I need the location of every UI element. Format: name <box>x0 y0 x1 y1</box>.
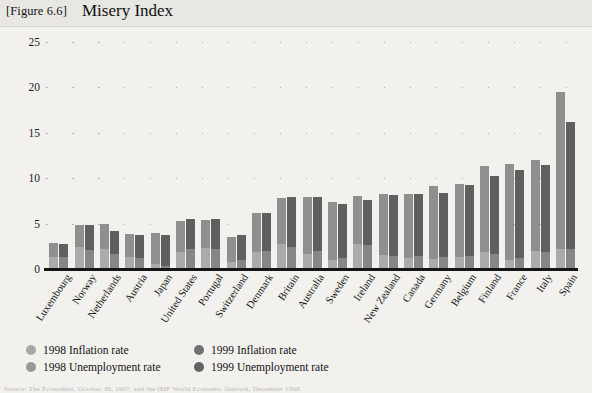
bar-group <box>328 42 347 269</box>
legend-label: 1999 Unemployment rate <box>211 361 329 373</box>
x-axis-tick-label-text: Britain <box>275 272 300 302</box>
bar-group <box>531 42 550 269</box>
x-axis-tick-label-text: Italy <box>534 272 554 294</box>
bar-segment-unemployment <box>439 193 448 257</box>
bar-group <box>49 42 68 269</box>
legend-swatch-icon <box>26 345 36 355</box>
x-axis-tick-label-text: Spain <box>557 272 579 298</box>
bar-group <box>429 42 448 269</box>
bar-1998 <box>49 243 58 269</box>
legend-label: 1998 Inflation rate <box>43 344 129 356</box>
bar-segment-unemployment <box>277 198 286 244</box>
x-axis-tick-label-text: Canada <box>401 272 428 304</box>
bar-segment-unemployment <box>313 197 322 251</box>
source-note: Source: The Economist, October 30, 1997,… <box>4 385 302 393</box>
bar-segment-unemployment <box>566 122 575 249</box>
bar-segment-unemployment <box>389 195 398 256</box>
legend-label: 1998 Unemployment rate <box>43 361 161 373</box>
chart-plot-area: 0510152025 <box>46 42 578 269</box>
bar-group <box>303 42 322 269</box>
page-title: Misery Index <box>82 1 173 21</box>
bar-segment-unemployment <box>303 197 312 254</box>
bar-group <box>379 42 398 269</box>
y-axis-tick-label: 5 <box>34 218 40 230</box>
legend-swatch-icon <box>194 362 204 372</box>
x-axis-tick-label-text: Sweden <box>324 272 352 306</box>
bar-1999 <box>566 122 575 269</box>
bar-group <box>277 42 296 269</box>
bar-group <box>455 42 474 269</box>
y-axis-tick-label: 20 <box>29 81 41 93</box>
bar-group <box>353 42 372 269</box>
bar-1999 <box>59 244 68 269</box>
bar-segment-unemployment <box>515 170 524 258</box>
bar-group <box>176 42 195 269</box>
x-axis-tick-label-text: Japan <box>152 272 174 298</box>
bar-segment-unemployment <box>363 200 372 245</box>
legend-item-1999-inflation: 1999 Inflation rate <box>194 344 297 356</box>
bar-segment-unemployment <box>186 219 195 249</box>
y-axis-tick-label: 15 <box>29 127 41 139</box>
figure-tag: [Figure 6.6] <box>6 4 67 19</box>
legend-item-1998-inflation: 1998 Inflation rate <box>26 344 129 356</box>
bar-1998 <box>556 92 565 269</box>
legend-label: 1999 Inflation rate <box>211 344 297 356</box>
y-axis-tick-label: 25 <box>29 36 41 48</box>
legend-swatch-icon <box>194 345 204 355</box>
legend-item-1999-unemployment: 1999 Unemployment rate <box>194 361 329 373</box>
legend-item-1998-unemployment: 1998 Unemployment rate <box>26 361 161 373</box>
x-axis-labels: LuxembourgNorwayNetherlandsAustriaJapanU… <box>0 272 592 334</box>
x-axis-tick-label-text: Finland <box>476 272 503 305</box>
bar-group <box>480 42 499 269</box>
bar-group <box>505 42 524 269</box>
bar-segment-unemployment <box>480 166 489 252</box>
bar-group <box>556 42 575 269</box>
bar-1999 <box>338 204 347 269</box>
bar-segment-unemployment <box>541 165 550 252</box>
bar-1999 <box>363 200 372 269</box>
x-axis-tick-label-text: France <box>504 272 529 302</box>
x-axis-tick-label-text: Ireland <box>351 272 377 303</box>
bar-segment-unemployment <box>176 221 185 252</box>
x-axis-tick-label-text: Luxembourg <box>33 272 72 323</box>
bar-group <box>151 42 170 269</box>
bar-segment-unemployment <box>531 160 540 251</box>
bar-group <box>227 42 246 269</box>
bar-group <box>100 42 119 269</box>
y-axis-tick-label: 10 <box>29 172 41 184</box>
bar-segment-unemployment <box>59 244 68 258</box>
chart-legend: 1998 Inflation rate 1998 Unemployment ra… <box>26 344 446 378</box>
bars-layer <box>46 42 578 269</box>
bar-segment-unemployment <box>49 243 58 258</box>
bar-1999 <box>186 219 195 269</box>
bar-segment-unemployment <box>556 92 565 249</box>
legend-swatch-icon <box>26 362 36 372</box>
bar-segment-unemployment <box>379 194 388 256</box>
x-axis-tick-label-text: Austria <box>122 272 148 304</box>
bar-segment-unemployment <box>353 196 362 244</box>
